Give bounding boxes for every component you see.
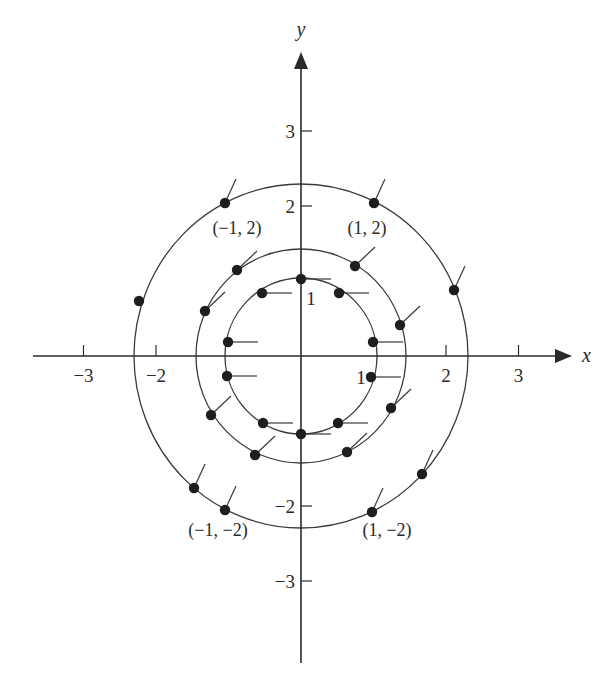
- y-tick-label: 3: [286, 121, 296, 142]
- sample-point-dot: [250, 450, 260, 460]
- unit-tick-label: 1: [306, 288, 316, 309]
- sample-point-dot: [296, 429, 306, 439]
- point-labels: (−1, 2)(1, 2)(−1, −2)(1, −2): [188, 218, 411, 541]
- sample-point-dot: [134, 296, 144, 306]
- coordinate-label: (−1, −2): [188, 520, 247, 541]
- x-tick-label: −2: [146, 365, 166, 386]
- sample-point-dot: [258, 418, 268, 428]
- x-axis-label: x: [581, 344, 591, 366]
- sample-point-dot: [334, 288, 344, 298]
- x-tick-label: −3: [73, 365, 93, 386]
- sample-point-dot: [220, 198, 230, 208]
- sample-point-dot: [366, 372, 376, 382]
- coordinate-label: (1, −2): [362, 520, 411, 541]
- sample-point-dot: [222, 371, 232, 381]
- sample-point-dot: [333, 418, 343, 428]
- sample-point-dot: [296, 274, 306, 284]
- coordinate-label: (1, 2): [348, 218, 387, 239]
- sample-point-dot: [232, 265, 242, 275]
- sample-point-dot: [449, 285, 459, 295]
- sample-point-dot: [417, 469, 427, 479]
- direction-field-diagram: x y −3−22332−2−311 (−1, 2)(1, 2)(−1, −2)…: [0, 0, 614, 691]
- x-tick-label: 3: [514, 365, 524, 386]
- x-axis-arrowhead-icon: [555, 349, 572, 363]
- sample-point-dot: [206, 410, 216, 420]
- sample-point-dot: [189, 483, 199, 493]
- x-tick-label: 2: [441, 365, 451, 386]
- sample-point-dot: [223, 337, 233, 347]
- sample-point-dot: [220, 505, 230, 515]
- sample-point-dot: [257, 288, 267, 298]
- unit-tick-label: 1: [356, 367, 366, 388]
- y-tick-label: −2: [275, 496, 295, 517]
- sample-points: [134, 198, 459, 517]
- sample-point-dot: [369, 198, 379, 208]
- sample-point-dot: [386, 403, 396, 413]
- sample-point-dot: [342, 447, 352, 457]
- y-axis-arrowhead-icon: [294, 52, 308, 69]
- y-axis-label: y: [295, 18, 306, 41]
- sample-point-dot: [395, 320, 405, 330]
- sample-point-dot: [350, 261, 360, 271]
- sample-point-dot: [368, 337, 378, 347]
- coordinate-label: (−1, 2): [212, 218, 261, 239]
- axes: x y: [33, 18, 591, 663]
- sample-point-dot: [200, 306, 210, 316]
- y-tick-label: −3: [275, 571, 295, 592]
- sample-point-dot: [367, 507, 377, 517]
- y-tick-label: 2: [286, 196, 296, 217]
